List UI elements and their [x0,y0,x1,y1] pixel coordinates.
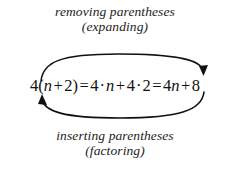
equation: 4(n+2)=4·n+4·2=4n+8 [0,76,230,96]
equation-variable-1: n [44,76,52,95]
bottom-caption-line-2: (factoring) [0,143,230,158]
bottom-caption-line-1: inserting parentheses [0,128,230,143]
equation-coefficient-4: 4 [163,76,171,95]
equation-coefficient-3: 4 [127,76,135,95]
equation-plus-2: + [114,76,126,95]
equation-coefficient-1: 4 [30,76,38,95]
equation-plus-1: + [52,76,64,95]
equation-constant-4: 8 [192,76,200,95]
equation-coefficient-2: 4 [90,76,98,95]
top-arrow-head-icon [199,65,208,76]
equation-plus-3: + [179,76,191,95]
equation-equals-1: = [78,76,90,95]
distributive-property-figure: removing parentheses (expanding) 4(n+2)=… [0,0,230,172]
top-caption-line-1: removing parentheses [0,4,230,19]
equation-multiply-dot-1: · [99,76,107,95]
equation-constant-3: 2 [142,76,150,95]
equation-constant-2: 2 [64,76,72,95]
equation-equals-2: = [151,76,163,95]
top-caption-line-2: (expanding) [0,19,230,34]
